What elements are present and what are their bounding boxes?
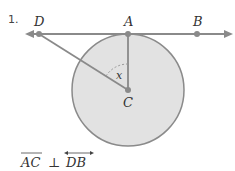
arrow-right-icon (224, 30, 233, 38)
label-a: A (123, 14, 133, 29)
perp-symbol: ⊥ (48, 155, 60, 170)
problem-number: 1. (8, 13, 19, 26)
statement-segment: AC (20, 155, 40, 170)
angle-label-x: x (116, 69, 123, 82)
bar-arrow-right-icon (90, 151, 94, 155)
statement-line: DB (65, 155, 86, 170)
point-a (125, 31, 131, 37)
point-c (125, 87, 131, 93)
point-b (194, 31, 200, 37)
geometry-figure: 1. D A B C x AC ⊥ DB (0, 0, 235, 171)
label-d: D (33, 14, 45, 29)
label-c: C (123, 95, 133, 110)
point-d (36, 31, 42, 37)
label-b: B (192, 14, 203, 29)
arrow-left-icon (25, 30, 34, 38)
